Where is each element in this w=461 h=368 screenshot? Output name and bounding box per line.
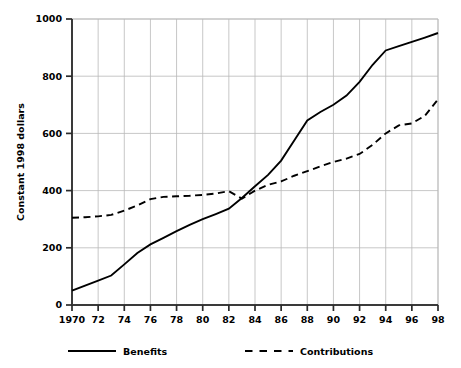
chart-canvas: 02004006008001000 1970727476788082848688… bbox=[0, 0, 461, 368]
x-tick-label: 88 bbox=[301, 314, 315, 325]
x-tick-label: 72 bbox=[92, 314, 105, 325]
legend-label: Contributions bbox=[300, 346, 373, 357]
x-tick-label: 96 bbox=[405, 314, 419, 325]
x-tick-label: 86 bbox=[275, 314, 289, 325]
y-axis-title: Constant 1998 dollars bbox=[15, 103, 26, 221]
line-chart: 02004006008001000 1970727476788082848688… bbox=[0, 0, 461, 368]
x-tick-label: 90 bbox=[327, 314, 341, 325]
x-tick-label: 1970 bbox=[59, 314, 86, 325]
x-tick-label: 78 bbox=[170, 314, 184, 325]
x-tick-label: 92 bbox=[353, 314, 366, 325]
x-tick-label: 76 bbox=[144, 314, 158, 325]
y-tick-label: 200 bbox=[42, 242, 62, 253]
x-tick-label: 98 bbox=[431, 314, 445, 325]
y-tick-label: 0 bbox=[55, 299, 62, 310]
x-tick-label: 84 bbox=[248, 314, 262, 325]
y-tick-label: 800 bbox=[42, 71, 62, 82]
x-tick-label: 82 bbox=[222, 314, 235, 325]
x-tick-label: 94 bbox=[379, 314, 393, 325]
y-tick-label: 400 bbox=[42, 185, 62, 196]
legend-label: Benefits bbox=[123, 346, 167, 357]
x-axis-tick-labels: 19707274767880828486889092949698 bbox=[59, 314, 445, 325]
y-axis-tick-labels: 02004006008001000 bbox=[36, 13, 63, 310]
chart-legend: BenefitsContributions bbox=[68, 346, 373, 357]
y-tick-label: 600 bbox=[42, 128, 62, 139]
x-tick-label: 74 bbox=[118, 314, 132, 325]
x-tick-label: 80 bbox=[196, 314, 210, 325]
y-tick-label: 1000 bbox=[36, 13, 63, 24]
